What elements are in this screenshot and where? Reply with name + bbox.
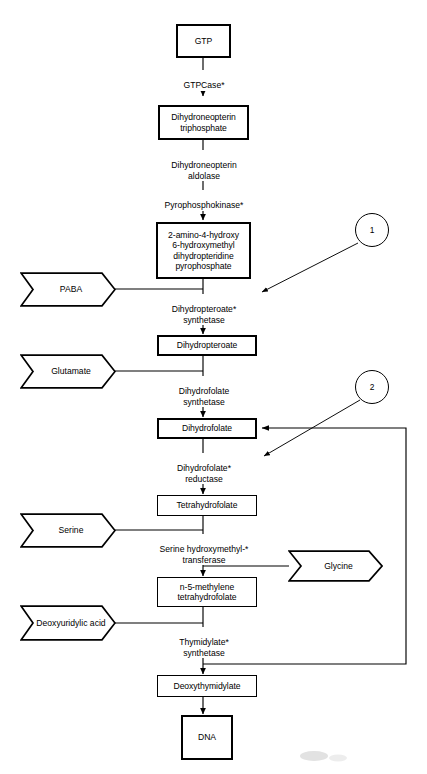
node-amino-hydroxy-pyrophosphate: 2-amino-4-hydroxy 6-hydroxymethyl dihydr… (156, 222, 251, 279)
node-dna-label: DNA (198, 732, 216, 742)
enzyme-dihydrofolate-reductase: Dihydrofolate* reductase (153, 453, 255, 484)
product-glycine: Glycine (288, 550, 383, 582)
enzyme-thymidylate-synthetase: Thymidylate* synthetase (153, 627, 255, 658)
enzyme-dihydrofolate-synthetase: Dihydrofolate synthetase (153, 376, 255, 407)
enzyme-pyrophosphokinase: Pyrophosphokinase* (148, 190, 260, 211)
node-dihydrofolate-label: Dihydrofolate (182, 423, 232, 433)
node-n5-methylene-tetrahydrofolate: n-5-methylene tetrahydrofolate (157, 577, 257, 607)
node-tetrahydrofolate-label: Tetrahydrofolate (177, 500, 238, 510)
annotation-ref-1[interactable]: 1 (355, 213, 389, 247)
enzyme-gtpcase-label: GTPCase* (183, 80, 224, 90)
enzyme-gtpcase: GTPCase* (163, 70, 245, 91)
node-tetrahydrofolate: Tetrahydrofolate (157, 495, 257, 516)
annotation-ref-1-label: 1 (370, 225, 375, 235)
node-n5-methylene-tetrahydrofolate-label: n-5-methylene tetrahydrofolate (178, 582, 237, 602)
node-dihydropteroate-label: Dihydropteroate (177, 340, 237, 350)
node-dihydropteroate: Dihydropteroate (157, 335, 257, 356)
enzyme-pyrophosphokinase-label: Pyrophosphokinase* (165, 200, 244, 210)
pathway-diagram: PABA Glutamate Serine Deoxyuridylic acid… (0, 0, 427, 774)
substrate-paba: PABA (20, 272, 116, 307)
node-amino-hydroxy-pyrophosphate-label: 2-amino-4-hydroxy 6-hydroxymethyl dihydr… (168, 230, 239, 271)
enzyme-serine-hydroxymethyl-transferase-label: Serine hydroxymethyl-* transferase (160, 544, 249, 564)
enzyme-dihydrofolate-reductase-label: Dihydrofolate* reductase (177, 463, 231, 483)
enzyme-dihydrofolate-synthetase-label: Dihydrofolate synthetase (179, 386, 230, 406)
node-dna: DNA (181, 715, 233, 760)
enzyme-serine-hydroxymethyl-transferase: Serine hydroxymethyl-* transferase (140, 534, 268, 565)
node-gtp: GTP (176, 24, 231, 58)
annotation-ref-2[interactable]: 2 (355, 370, 389, 404)
enzyme-dihydroneopterin-aldolase: Dihydroneopterin aldolase (153, 150, 255, 181)
node-gtp-label: GTP (195, 36, 213, 46)
enzyme-thymidylate-synthetase-label: Thymidylate* synthetase (179, 637, 229, 657)
node-deoxythymidylate: Deoxythymidylate (157, 675, 257, 697)
node-dihydroneopterin-triphosphate-label: Dihydroneopterin triphosphate (171, 112, 236, 132)
enzyme-dihydropteroate-synthetase: Dihydropteroate* synthetase (153, 294, 255, 325)
annotation-ref-2-label: 2 (370, 382, 375, 392)
node-deoxythymidylate-label: Deoxythymidylate (173, 681, 240, 691)
node-dihydroneopterin-triphosphate: Dihydroneopterin triphosphate (158, 105, 249, 140)
node-dihydrofolate: Dihydrofolate (157, 418, 257, 439)
substrate-glutamate: Glutamate (20, 354, 116, 389)
substrate-serine: Serine (20, 513, 116, 548)
enzyme-dihydropteroate-synthetase-label: Dihydropteroate* synthetase (172, 304, 237, 324)
enzyme-dihydroneopterin-aldolase-label: Dihydroneopterin aldolase (171, 160, 236, 180)
substrate-deoxyuridylic-acid: Deoxyuridylic acid (20, 605, 116, 641)
leader-ref-1 (262, 243, 358, 292)
